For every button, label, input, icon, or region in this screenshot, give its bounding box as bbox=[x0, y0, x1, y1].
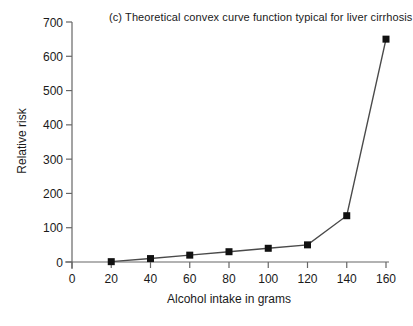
y-tick-label: 700 bbox=[43, 16, 63, 30]
y-tick-label: 0 bbox=[56, 256, 63, 270]
data-point-marker bbox=[343, 212, 350, 219]
x-tick-label: 80 bbox=[222, 272, 236, 286]
y-tick-label: 200 bbox=[43, 187, 63, 201]
plot-area: 0100200300400500600700020406080100120140… bbox=[0, 0, 413, 326]
x-tick-label: 160 bbox=[376, 272, 396, 286]
x-tick-label: 20 bbox=[105, 272, 119, 286]
y-tick-label: 500 bbox=[43, 84, 63, 98]
data-line bbox=[111, 39, 386, 262]
x-tick-label: 0 bbox=[69, 272, 76, 286]
y-tick-label: 400 bbox=[43, 118, 63, 132]
y-tick-label: 300 bbox=[43, 153, 63, 167]
y-tick-label: 600 bbox=[43, 50, 63, 64]
chart-figure: (c) Theoretical convex curve function ty… bbox=[0, 0, 413, 326]
data-point-marker bbox=[265, 245, 272, 252]
x-tick-label: 100 bbox=[258, 272, 278, 286]
data-point-marker bbox=[108, 258, 115, 265]
data-point-marker bbox=[186, 252, 193, 259]
x-tick-label: 140 bbox=[337, 272, 357, 286]
data-point-marker bbox=[383, 36, 390, 43]
y-tick-label: 100 bbox=[43, 221, 63, 235]
data-point-marker bbox=[226, 248, 233, 255]
x-axis-label: Alcohol intake in grams bbox=[72, 292, 386, 306]
x-tick-label: 40 bbox=[144, 272, 158, 286]
x-tick-label: 60 bbox=[183, 272, 197, 286]
data-point-marker bbox=[147, 255, 154, 262]
data-point-marker bbox=[304, 241, 311, 248]
x-tick-label: 120 bbox=[297, 272, 317, 286]
